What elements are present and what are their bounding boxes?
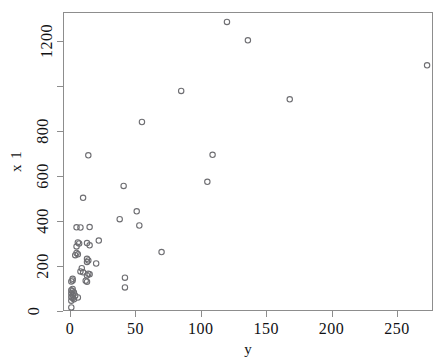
x-axis-title: y xyxy=(244,341,252,358)
x-tick-mark xyxy=(332,311,333,317)
x-tick-label: 100 xyxy=(188,320,214,338)
y-tick-mark xyxy=(57,311,63,312)
x-tick-mark xyxy=(201,311,202,317)
y-tick-mark xyxy=(57,86,63,87)
y-tick-label: 0 xyxy=(25,307,43,316)
y-tick-label: 600 xyxy=(34,163,52,189)
y-tick-mark xyxy=(57,41,63,42)
y-tick-label: 1200 xyxy=(38,24,56,58)
x-tick-mark xyxy=(397,311,398,317)
x-tick-mark xyxy=(135,311,136,317)
y-tick-mark xyxy=(57,176,63,177)
x-tick-mark xyxy=(70,311,71,317)
x-tick-label: 200 xyxy=(319,320,345,338)
y-tick-label: 800 xyxy=(34,118,52,144)
y-tick-label: 200 xyxy=(34,253,52,279)
scatter-plot-figure: 050100150200250 02004006008001200 y x 1 xyxy=(0,0,439,364)
y-tick-mark xyxy=(57,131,63,132)
x-tick-label: 0 xyxy=(66,320,75,338)
x-tick-label: 250 xyxy=(384,320,410,338)
x-tick-label: 50 xyxy=(127,320,144,338)
x-tick-mark xyxy=(266,311,267,317)
y-tick-label: 400 xyxy=(34,208,52,234)
x-tick-label: 150 xyxy=(253,320,279,338)
plot-frame xyxy=(63,12,433,311)
y-axis-title: x 1 xyxy=(8,150,25,172)
y-tick-mark xyxy=(57,221,63,222)
y-tick-mark xyxy=(57,266,63,267)
